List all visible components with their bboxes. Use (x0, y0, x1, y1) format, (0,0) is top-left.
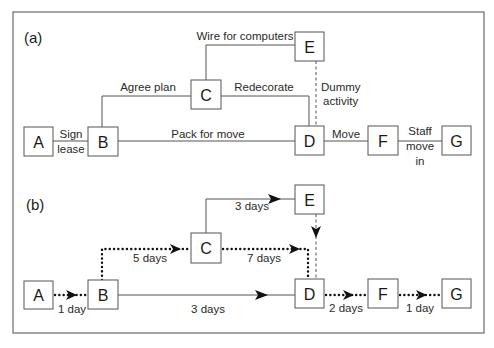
node-a: A (24, 281, 53, 309)
node-f: F (368, 279, 398, 308)
panel-a-label: (a) (24, 29, 42, 46)
node-e: E (295, 185, 324, 214)
duration-b-c: 5 days (133, 252, 167, 264)
node-d-label: D (304, 133, 316, 150)
node-b-label: B (98, 134, 109, 151)
activity-dummy-line1: Dummy (321, 81, 361, 93)
diagram-frame (13, 12, 484, 333)
activity-wire-for-computers: Wire for computers (196, 30, 293, 42)
node-c-label: C (200, 240, 212, 257)
node-c: C (191, 233, 221, 263)
node-a: A (24, 127, 53, 156)
node-d: D (295, 126, 324, 155)
node-a-label: A (33, 287, 44, 304)
duration-c-e: 3 days (235, 200, 269, 212)
activity-move: Move (332, 128, 360, 140)
activity-pack-for-move: Pack for move (171, 128, 245, 140)
node-f-label: F (378, 133, 388, 150)
node-d: D (295, 279, 324, 308)
node-g: G (442, 279, 471, 308)
panel-b: (b) 1 day 5 days 3 days 3 days 7 days 2 … (24, 185, 471, 315)
activity-staff-move-in-line2: move (406, 140, 434, 152)
activity-staff-move-in-line3: in (416, 155, 425, 167)
node-e-label: E (304, 192, 315, 209)
duration-c-d: 7 days (247, 252, 281, 264)
node-g-label: G (450, 286, 462, 303)
node-f-label: F (378, 286, 388, 303)
duration-f-g: 1 day (406, 302, 434, 314)
activity-sign-lease-line1: Sign (59, 128, 82, 140)
arrow-head-icon (343, 290, 354, 300)
node-g: G (442, 126, 471, 155)
panel-a: (a) Sign lease Agree plan Pack for move … (24, 29, 471, 167)
node-e-label: E (304, 39, 315, 56)
arrow-head-icon (170, 244, 181, 254)
activity-dummy-line2: activity (323, 95, 358, 107)
node-f: F (368, 126, 398, 155)
activity-agree-plan: Agree plan (120, 81, 176, 93)
duration-d-f: 2 days (329, 302, 363, 314)
node-g-label: G (450, 133, 462, 150)
edge-c-d (221, 96, 309, 126)
activity-sign-lease-line2: lease (57, 143, 85, 155)
node-a-label: A (33, 134, 44, 151)
duration-a-b: 1 day (58, 303, 86, 315)
node-b-label: B (98, 287, 109, 304)
edge-b-c (102, 96, 191, 127)
panel-b-label: (b) (26, 196, 44, 213)
critical-path-diagram: (a) Sign lease Agree plan Pack for move … (0, 0, 494, 348)
edge-c-e (206, 45, 295, 80)
node-c-label: C (200, 87, 212, 104)
activity-staff-move-in-line1: Staff (408, 125, 432, 137)
node-b: B (88, 127, 118, 156)
node-c: C (191, 80, 221, 109)
node-b: B (88, 280, 118, 309)
node-e: E (295, 32, 324, 61)
node-d-label: D (304, 286, 316, 303)
duration-b-d: 3 days (191, 303, 225, 315)
activity-redecorate: Redecorate (234, 81, 293, 93)
